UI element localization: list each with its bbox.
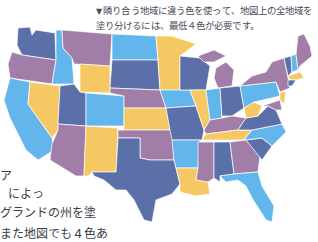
state-kansas <box>124 108 170 130</box>
state-maine <box>296 34 312 70</box>
state-mississippi <box>196 142 214 182</box>
state-south-dakota <box>110 60 160 90</box>
state-connecticut <box>288 80 296 86</box>
state-michigan-upper <box>198 50 226 62</box>
state-michigan-lower <box>214 62 234 88</box>
state-ohio <box>220 86 244 116</box>
state-colorado <box>86 93 124 126</box>
map-caption: ▼隣り合う地域に違う色を使って、地図上の全地域を 塗り分けるには、最低４色が必要… <box>96 4 318 33</box>
state-wyoming <box>80 64 110 93</box>
state-new-mexico <box>84 126 118 176</box>
us-four-color-map <box>0 0 318 242</box>
caption-line-1: ▼隣り合う地域に違う色を使って、地図上の全地域を <box>96 4 318 19</box>
state-iowa <box>160 90 196 108</box>
state-florida <box>220 172 274 222</box>
caption-line-2: 塗り分けるには、最低４色が必要です。 <box>96 19 318 33</box>
state-new-jersey <box>280 92 286 104</box>
state-arkansas <box>172 140 200 168</box>
triangle-marker-icon: ▼ <box>96 7 102 16</box>
state-north-dakota <box>112 34 158 60</box>
